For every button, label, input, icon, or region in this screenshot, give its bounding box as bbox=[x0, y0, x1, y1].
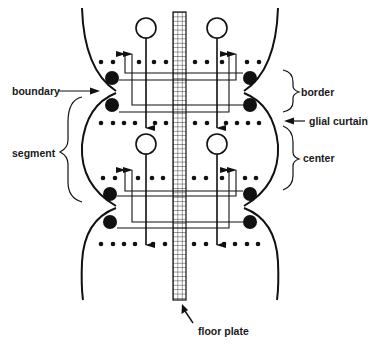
right-contours bbox=[244, 8, 278, 300]
boundary-label: boundary bbox=[12, 85, 60, 97]
boundary-arrow bbox=[58, 88, 100, 95]
segment-brace bbox=[60, 97, 82, 202]
glial-curtain-arrow bbox=[284, 118, 305, 125]
center-label: center bbox=[303, 152, 335, 164]
center-brace bbox=[283, 126, 299, 190]
cell-body-right bbox=[207, 18, 227, 38]
glial-curtain-label: glial curtain bbox=[309, 115, 368, 127]
cell-body-left bbox=[136, 18, 156, 38]
cell-body-left bbox=[136, 134, 156, 154]
floor-plate bbox=[173, 12, 186, 300]
floor-plate-arrow bbox=[182, 304, 194, 323]
border-brace bbox=[283, 70, 299, 112]
left-contours bbox=[82, 8, 116, 300]
cell-body-right bbox=[207, 134, 227, 154]
floor-plate-label: floor plate bbox=[198, 325, 249, 337]
segment-diagram bbox=[0, 0, 374, 345]
border-label: border bbox=[301, 86, 334, 98]
segment-label: segment bbox=[12, 147, 55, 159]
